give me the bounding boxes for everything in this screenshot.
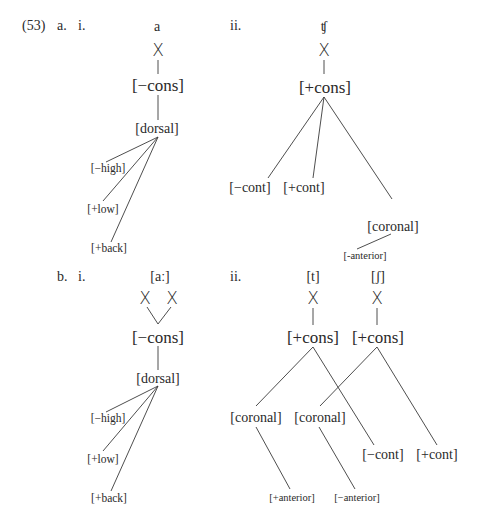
manner-node: [−cont]	[362, 448, 403, 462]
place-feature-node: [−anterior]	[334, 493, 380, 504]
manner-node: [−cont]	[229, 181, 270, 195]
root-node: [−cons]	[132, 329, 184, 346]
manner-node: [+cont]	[416, 448, 457, 462]
root-node: [−cons]	[132, 77, 184, 94]
timing-slot: X	[152, 42, 164, 59]
feature-node: [−high]	[91, 163, 126, 175]
place-feature-node: [-anterior]	[343, 251, 386, 262]
timing-slot: X	[139, 290, 151, 307]
feature-node: [+low]	[87, 204, 118, 216]
root-node: [+cons]	[352, 329, 404, 346]
root-node: [+cons]	[299, 79, 351, 96]
place-feature-node: [+anterior]	[269, 493, 315, 504]
subexample-a-label: a.	[57, 19, 67, 33]
item-a-ii-label: ii.	[230, 19, 241, 33]
item-a-i-label: i.	[78, 19, 85, 33]
tree-branches	[0, 0, 478, 523]
place-node: [coronal]	[230, 411, 281, 425]
feature-node: [+back]	[91, 493, 127, 505]
place-node: [dorsal]	[136, 372, 180, 386]
segment-label: ʧ	[321, 20, 327, 34]
timing-slot: X	[307, 290, 319, 307]
feature-node: [−high]	[91, 413, 126, 425]
manner-node: [+cont]	[283, 181, 324, 195]
place-node: [dorsal]	[135, 122, 179, 136]
item-b-i-label: i.	[78, 270, 85, 284]
subexample-b-label: b.	[57, 270, 68, 284]
timing-slot: X	[371, 290, 383, 307]
feature-node: [+low]	[87, 454, 118, 466]
timing-slot: X	[318, 42, 330, 59]
place-node: [coronal]	[294, 411, 345, 425]
timing-slot: X	[166, 290, 178, 307]
item-b-ii-label: ii.	[230, 270, 241, 284]
segment-label: [ʃ]	[371, 270, 385, 284]
segment-label: a	[154, 20, 160, 34]
segment-label: [aː]	[150, 270, 169, 284]
feature-node: [+back]	[91, 243, 127, 255]
place-node: [coronal]	[367, 220, 418, 234]
root-node: [+cons]	[287, 329, 339, 346]
segment-label: [t]	[306, 270, 319, 284]
example-number: (53)	[22, 19, 45, 33]
